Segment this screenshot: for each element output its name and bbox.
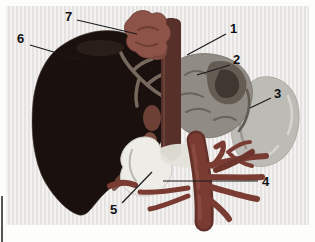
anatomy-figure: 1 2 3 4 5 6 7 xyxy=(0,0,315,242)
callout-label-4: 4 xyxy=(262,174,270,189)
left-vessel-stub xyxy=(110,183,135,186)
liver-top-highlight xyxy=(76,40,124,56)
callout-label-3: 3 xyxy=(274,86,281,101)
callout-label-1: 1 xyxy=(230,21,237,36)
callout-label-7: 7 xyxy=(65,9,72,24)
callout-label-5: 5 xyxy=(110,202,117,217)
hilar-vessel-lump xyxy=(143,105,161,131)
callout-label-6: 6 xyxy=(17,31,24,46)
callout-line-1 xyxy=(187,34,226,55)
mesenteric-branches-left xyxy=(140,188,188,209)
callout-label-2: 2 xyxy=(233,52,240,67)
